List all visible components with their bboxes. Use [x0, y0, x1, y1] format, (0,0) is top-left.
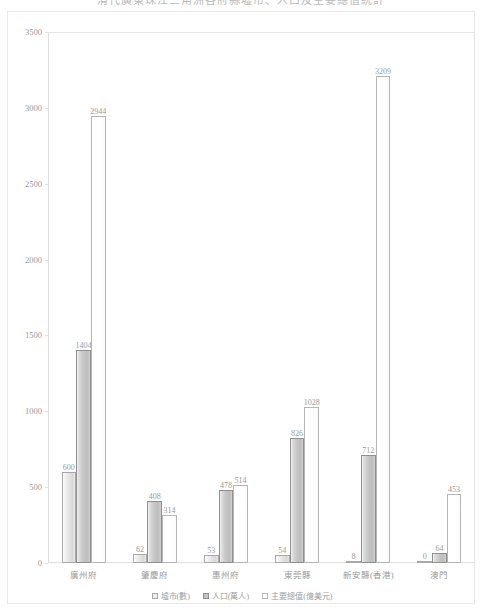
y-tick-label: 1000	[25, 406, 42, 416]
x-tick-label: 新安縣(香港)	[343, 568, 394, 580]
legend-label: 人口(萬人)	[212, 590, 249, 601]
bar-value-label: 478	[220, 482, 232, 490]
y-tick-label: 500	[29, 482, 42, 492]
bar-slot: 712	[361, 32, 376, 563]
bar-slot: 0	[417, 32, 432, 563]
x-tick-label: 澳門	[430, 568, 448, 580]
bar-value-label: 64	[435, 545, 443, 553]
legend-label: 墟市(數)	[161, 590, 190, 601]
bar[interactable]: 62	[133, 554, 148, 563]
bar[interactable]: 64	[432, 553, 447, 563]
bar-slot: 64	[432, 32, 447, 563]
bar-slot: 600	[62, 32, 77, 563]
bar-value-label: 712	[362, 447, 374, 455]
bar-slot: 1404	[76, 32, 91, 563]
bar-value-label: 2944	[90, 108, 106, 116]
x-tick-label: 東莞縣	[284, 568, 311, 580]
chart-figure-frame: 0500100015002000250030003500 60014042944…	[7, 11, 475, 604]
bar-value-label: 826	[291, 430, 303, 438]
bar[interactable]: 3209	[376, 76, 391, 563]
legend-swatch-icon	[262, 593, 268, 599]
chart-title: 清代廣東珠江三角洲各府縣墟市、人口及主要總值統計	[0, 0, 482, 7]
bar-group: 53478514	[190, 32, 261, 563]
y-tick-label: 0	[38, 558, 42, 568]
bar-value-label: 514	[235, 477, 247, 485]
legend-swatch-icon	[203, 593, 209, 599]
bar-value-label: 8	[352, 553, 356, 561]
bar-value-label: 0	[423, 553, 427, 561]
x-tick-label: 廣州府	[70, 568, 97, 580]
bar-value-label: 453	[448, 486, 460, 494]
bar-slot: 53	[204, 32, 219, 563]
x-tick-label: 惠州府	[212, 568, 239, 580]
bar-value-label: 3209	[375, 68, 391, 76]
bar-slot: 54	[275, 32, 290, 563]
bar-slot: 8	[346, 32, 361, 563]
bar[interactable]: 0	[417, 561, 432, 563]
legend-swatch-icon	[152, 593, 158, 599]
bar[interactable]: 2944	[91, 116, 106, 563]
bar-slot: 453	[447, 32, 462, 563]
bar-group: 60014042944	[48, 32, 119, 563]
bar-value-label: 314	[163, 507, 175, 515]
bar-slot: 514	[233, 32, 248, 563]
legend-item[interactable]: 墟市(數)	[152, 590, 190, 601]
bars-layer: 6001404294462408314534785145482610288712…	[48, 32, 475, 563]
bar-value-label: 408	[149, 493, 161, 501]
y-tick-label: 3000	[25, 103, 42, 113]
bar-value-label: 54	[278, 547, 286, 555]
x-tick-label: 肇慶府	[141, 568, 168, 580]
bar-value-label: 1404	[76, 342, 92, 350]
bar-value-label: 62	[136, 546, 144, 554]
legend-item[interactable]: 人口(萬人)	[203, 590, 249, 601]
bar[interactable]: 1028	[304, 407, 319, 563]
bar-slot: 62	[133, 32, 148, 563]
plot-area: 0500100015002000250030003500 60014042944…	[48, 32, 475, 563]
bar-value-label: 1028	[304, 399, 320, 407]
bar[interactable]: 478	[219, 490, 234, 563]
bar-group: 548261028	[262, 32, 333, 563]
y-tick-label: 1500	[25, 330, 42, 340]
bar[interactable]: 453	[447, 494, 462, 563]
bar-slot: 408	[147, 32, 162, 563]
chart-legend: 墟市(數)人口(萬人)主要總值(億美元)	[8, 590, 476, 601]
bar-value-label: 600	[63, 464, 75, 472]
bar[interactable]: 1404	[76, 350, 91, 563]
legend-label: 主要總值(億美元)	[271, 590, 332, 601]
bar[interactable]: 514	[233, 485, 248, 563]
legend-item[interactable]: 主要總值(億美元)	[262, 590, 332, 601]
bar[interactable]: 54	[275, 555, 290, 563]
bar-slot: 314	[162, 32, 177, 563]
bar-group: 62408314	[119, 32, 190, 563]
bar[interactable]: 8	[346, 561, 361, 563]
bar-group: 87123209	[333, 32, 404, 563]
bar[interactable]: 53	[204, 555, 219, 563]
y-tick-mark	[45, 563, 48, 564]
x-axis: 廣州府肇慶府惠州府東莞縣新安縣(香港)澳門	[48, 568, 475, 584]
bar-slot: 2944	[91, 32, 106, 563]
bar[interactable]: 314	[162, 515, 177, 563]
bar-value-label: 53	[207, 547, 215, 555]
bar[interactable]: 712	[361, 455, 376, 563]
y-tick-label: 2000	[25, 255, 42, 265]
y-tick-label: 2500	[25, 179, 42, 189]
bar-group: 064453	[404, 32, 475, 563]
bar-slot: 1028	[304, 32, 319, 563]
bar[interactable]: 600	[62, 472, 77, 563]
y-tick-label: 3500	[25, 27, 42, 37]
bar[interactable]: 826	[290, 438, 305, 563]
bar[interactable]: 408	[147, 501, 162, 563]
bar-slot: 3209	[376, 32, 391, 563]
bar-slot: 826	[290, 32, 305, 563]
bar-slot: 478	[219, 32, 234, 563]
